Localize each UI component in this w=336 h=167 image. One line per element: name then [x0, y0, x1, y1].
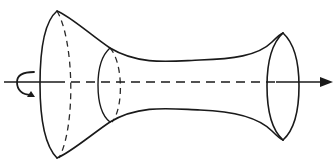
background-rect — [0, 0, 336, 167]
surface-of-revolution-drawing — [0, 0, 336, 167]
figure-canvas — [0, 0, 336, 167]
